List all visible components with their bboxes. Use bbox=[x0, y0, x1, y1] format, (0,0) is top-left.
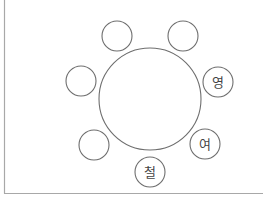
seat-left bbox=[66, 66, 96, 96]
seat-right: 영 bbox=[203, 67, 233, 97]
seat-circle bbox=[66, 66, 96, 96]
seat-bottom: 철 bbox=[135, 157, 165, 187]
seat-label: 철 bbox=[144, 165, 156, 180]
round-table bbox=[99, 48, 201, 150]
seating-diagram: 영여철 bbox=[0, 0, 263, 201]
seat-lower-left bbox=[79, 130, 109, 160]
seat-lower-right: 여 bbox=[190, 129, 220, 159]
seat-circle bbox=[79, 130, 109, 160]
seat-top-right bbox=[168, 21, 198, 51]
seat-circle bbox=[168, 21, 198, 51]
seat-top-left bbox=[102, 21, 132, 51]
seat-circle bbox=[102, 21, 132, 51]
seat-label: 여 bbox=[199, 137, 211, 152]
seat-label: 영 bbox=[212, 75, 224, 90]
